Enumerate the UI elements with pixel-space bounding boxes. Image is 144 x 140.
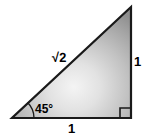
triangle-shape	[12, 7, 131, 118]
angle-label: 45°	[35, 103, 53, 115]
vertical-side-label: 1	[134, 55, 141, 68]
triangle-diagram-svg	[0, 0, 144, 140]
triangle-figure: √2 1 1 45°	[0, 0, 144, 140]
hypotenuse-label: √2	[52, 51, 67, 64]
base-side-label: 1	[68, 122, 75, 135]
